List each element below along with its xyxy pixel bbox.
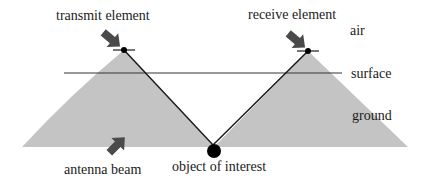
transmit-beam <box>22 50 214 147</box>
ground-label: ground <box>352 108 392 123</box>
object-of-interest-marker <box>207 144 221 158</box>
transmit-label: transmit element <box>56 8 150 23</box>
radar-diagram: transmit element receive element air sur… <box>0 0 428 185</box>
air-label: air <box>350 23 365 38</box>
surface-label: surface <box>351 66 391 81</box>
beam-label: antenna beam <box>64 162 141 177</box>
receive-label: receive element <box>248 7 336 22</box>
object-label: object of interest <box>172 159 266 174</box>
transmit-element <box>113 47 135 53</box>
receive-element <box>297 48 319 54</box>
